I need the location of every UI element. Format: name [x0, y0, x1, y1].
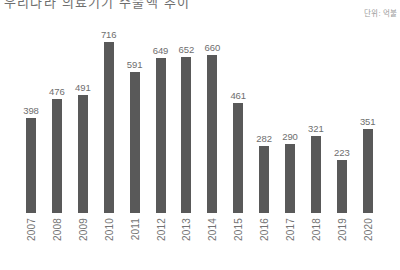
- bar-value-label: 591: [127, 59, 143, 71]
- bar[interactable]: [78, 95, 88, 213]
- x-axis-tick: 2011: [122, 218, 148, 266]
- x-axis-tick-label: 2010: [103, 218, 114, 241]
- x-axis-tick-label: 2017: [285, 218, 296, 241]
- bar[interactable]: [181, 57, 191, 213]
- x-axis-tick-label: 2008: [51, 218, 62, 241]
- bar[interactable]: [130, 72, 140, 214]
- bar[interactable]: [285, 144, 295, 213]
- bar-value-label: 652: [179, 44, 195, 56]
- bar[interactable]: [233, 103, 243, 213]
- x-axis-tick-label: 2018: [310, 218, 321, 241]
- bar-value-label: 290: [282, 131, 298, 143]
- bar[interactable]: [259, 146, 269, 214]
- bar[interactable]: [363, 129, 373, 213]
- x-axis-tick: 2017: [277, 218, 303, 266]
- x-axis-tick-label: 2014: [207, 218, 218, 241]
- bar[interactable]: [26, 118, 36, 213]
- x-axis-tick: 2010: [96, 218, 122, 266]
- x-axis-tick: 2009: [70, 218, 96, 266]
- x-axis-tick-label: 2012: [155, 218, 166, 241]
- bar[interactable]: [52, 99, 62, 213]
- x-axis-tick: 2014: [199, 218, 225, 266]
- x-axis-tick-label: 2019: [336, 218, 347, 241]
- bar-group[interactable]: 282: [251, 23, 277, 213]
- x-axis-tick-label: 2013: [181, 218, 192, 241]
- bar-group[interactable]: 461: [225, 23, 251, 213]
- bar-value-label: 649: [153, 45, 169, 57]
- x-axis-tick-label: 2009: [77, 218, 88, 241]
- bar-value-label: 223: [334, 147, 350, 159]
- bar-group[interactable]: 660: [199, 23, 225, 213]
- x-axis-tick: 2020: [355, 218, 381, 266]
- x-axis-tick-label: 2015: [233, 218, 244, 241]
- bar-group[interactable]: 652: [173, 23, 199, 213]
- bar-value-label: 491: [75, 82, 91, 94]
- x-axis-tick-label: 2007: [26, 218, 37, 241]
- plot-area: 3982007476200849120097162010591201164920…: [0, 0, 400, 270]
- bar-group[interactable]: 290: [277, 23, 303, 213]
- bar-group[interactable]: 591: [122, 23, 148, 213]
- x-axis-tick: 2008: [44, 218, 70, 266]
- bar-value-label: 282: [256, 133, 272, 145]
- x-axis-tick-label: 2011: [129, 218, 140, 240]
- bar-group[interactable]: 398: [18, 23, 44, 213]
- bar-value-label: 716: [101, 29, 117, 41]
- bar-chart: 우리나라 의료기기 수출액 추이 단위: 억불 3982007476200849…: [0, 0, 400, 270]
- x-axis-tick-label: 2020: [362, 218, 373, 241]
- bar-group[interactable]: 649: [148, 23, 174, 213]
- bar[interactable]: [156, 58, 166, 213]
- x-axis-tick: 2007: [18, 218, 44, 266]
- bar-value-label: 461: [230, 90, 246, 102]
- bar-value-label: 321: [308, 123, 324, 135]
- bar[interactable]: [337, 160, 347, 213]
- bar-value-label: 476: [49, 86, 65, 98]
- x-axis-tick: 2012: [148, 218, 174, 266]
- x-axis-tick: 2018: [303, 218, 329, 266]
- bar-group[interactable]: 476: [44, 23, 70, 213]
- bar-group[interactable]: 223: [329, 23, 355, 213]
- bar-group[interactable]: 716: [96, 23, 122, 213]
- bar-value-label: 660: [205, 42, 221, 54]
- x-axis-tick: 2019: [329, 218, 355, 266]
- bar[interactable]: [104, 42, 114, 214]
- x-axis-tick-label: 2016: [259, 218, 270, 241]
- bar[interactable]: [311, 136, 321, 213]
- x-axis-tick: 2016: [251, 218, 277, 266]
- x-axis-tick: 2015: [225, 218, 251, 266]
- bar[interactable]: [207, 55, 217, 213]
- bar-group[interactable]: 351: [355, 23, 381, 213]
- bar-group[interactable]: 321: [303, 23, 329, 213]
- bar-value-label: 351: [360, 116, 376, 128]
- bar-value-label: 398: [23, 105, 39, 117]
- bar-group[interactable]: 491: [70, 23, 96, 213]
- x-axis-tick: 2013: [173, 218, 199, 266]
